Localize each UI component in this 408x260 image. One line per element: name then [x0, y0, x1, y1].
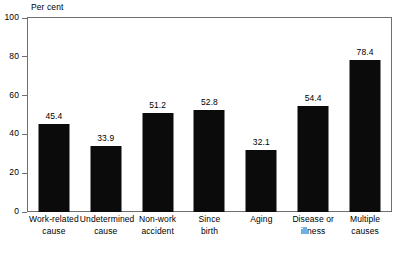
- bar[interactable]: [38, 124, 69, 212]
- x-axis-category-label: Disease orillness: [287, 214, 339, 237]
- y-axis-tick-label: 20: [9, 168, 19, 177]
- category-label-line-1: Since: [199, 214, 221, 224]
- bar-chart: Per cent 020406080100 45.433.951.252.832…: [0, 0, 408, 260]
- category-label-line-1: Aging: [250, 214, 272, 224]
- y-axis-tick: [22, 95, 27, 96]
- y-axis-tick-label: 40: [9, 129, 19, 138]
- category-label-line-2: birth: [184, 226, 236, 238]
- bar-value-label: 78.4: [357, 48, 374, 57]
- bar-slot: 33.9: [80, 18, 132, 212]
- bar-slot: 78.4: [339, 18, 391, 212]
- bar-value-label: 51.2: [149, 101, 166, 110]
- y-axis-tick: [22, 56, 27, 57]
- bar-slot: 54.4: [287, 18, 339, 212]
- bar[interactable]: [246, 150, 277, 212]
- category-label-line-2: illness: [287, 226, 339, 238]
- bar[interactable]: [90, 146, 121, 212]
- category-label-line-1: Undetermined: [80, 214, 135, 224]
- bar-value-label: 54.4: [305, 94, 322, 103]
- y-axis-tick-label: 80: [9, 52, 19, 61]
- bar-value-label: 33.9: [97, 134, 114, 143]
- category-label-line-2: causes: [339, 226, 391, 238]
- y-axis-tick-label: 0: [14, 207, 19, 216]
- x-axis-category-label: Aging: [235, 214, 287, 226]
- bar-slot: 51.2: [132, 18, 184, 212]
- x-axis-category-label: Sincebirth: [184, 214, 236, 237]
- y-axis-tick: [22, 173, 27, 174]
- bar-slot: 45.4: [28, 18, 80, 212]
- x-axis-category-label: Work-relatedcause: [28, 214, 80, 237]
- y-axis-title: Per cent: [31, 2, 63, 13]
- bar-slot: 32.1: [235, 18, 287, 212]
- category-label-line-1: Multiple: [350, 214, 380, 224]
- x-axis-category-label: Multiplecauses: [339, 214, 391, 237]
- bar[interactable]: [350, 60, 381, 212]
- bar-value-label: 32.1: [253, 138, 270, 147]
- bar[interactable]: [298, 106, 329, 212]
- category-label-line-2: cause: [80, 226, 132, 238]
- y-axis-tick-label: 60: [9, 91, 19, 100]
- x-axis-category-label: Non-workaccident: [132, 214, 184, 237]
- bar[interactable]: [142, 113, 173, 212]
- bars-container: 45.433.951.252.832.154.478.4: [28, 18, 391, 212]
- bar-value-label: 45.4: [45, 112, 62, 121]
- y-axis-tick: [22, 212, 27, 213]
- bar-slot: 52.8: [184, 18, 236, 212]
- x-axis-category-labels: Work-relatedcauseUndeterminedcauseNon-wo…: [28, 214, 391, 258]
- y-axis-tick-label: 100: [5, 13, 19, 22]
- y-axis-tick: [22, 18, 27, 19]
- category-label-line-1: Non-work: [139, 214, 176, 224]
- category-label-line-1: Work-related: [29, 214, 79, 224]
- bar-value-label: 52.8: [201, 98, 218, 107]
- bar[interactable]: [194, 110, 225, 212]
- category-label-line-2: accident: [132, 226, 184, 238]
- category-label-line-1: Disease or: [292, 214, 334, 224]
- x-axis-category-label: Undeterminedcause: [80, 214, 132, 237]
- y-axis-tick: [22, 134, 27, 135]
- category-label-line-2: cause: [28, 226, 80, 238]
